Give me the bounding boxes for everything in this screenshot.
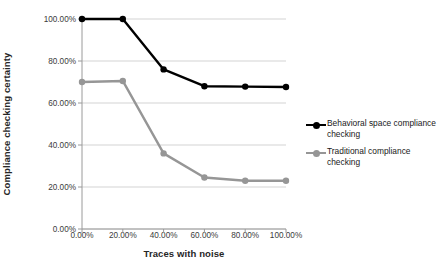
data-point-0-4[interactable] (242, 83, 248, 89)
legend-item-1[interactable]: Traditional compliance checking (306, 146, 442, 167)
legend-label-0: Behavioral space compliance checking (326, 118, 442, 139)
data-point-0-3[interactable] (201, 83, 207, 89)
series-line-1 (82, 81, 286, 181)
data-point-0-0[interactable] (79, 16, 85, 22)
line-chart: Compliance checking certainty Traces wit… (0, 0, 446, 272)
legend-marker-icon-1 (306, 148, 326, 158)
data-point-1-5[interactable] (283, 178, 289, 184)
series-line-0 (82, 19, 286, 87)
data-point-1-2[interactable] (160, 150, 166, 156)
data-point-0-2[interactable] (160, 66, 166, 72)
data-point-1-0[interactable] (79, 79, 85, 85)
legend-item-0[interactable]: Behavioral space compliance checking (306, 118, 442, 139)
legend-label-1: Traditional compliance checking (326, 146, 442, 167)
legend-marker-icon-0 (306, 120, 326, 130)
data-point-0-1[interactable] (120, 16, 126, 22)
data-point-1-1[interactable] (120, 78, 126, 84)
data-point-0-5[interactable] (283, 84, 289, 90)
legend: Behavioral space compliance checking Tra… (306, 118, 442, 174)
data-point-1-3[interactable] (201, 174, 207, 180)
data-point-1-4[interactable] (242, 178, 248, 184)
